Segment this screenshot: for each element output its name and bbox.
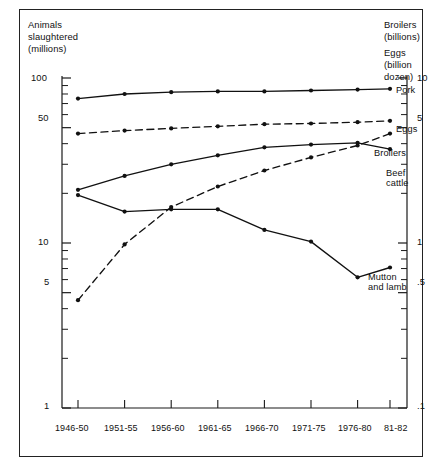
data-point <box>309 88 313 92</box>
data-point <box>76 97 80 101</box>
data-point <box>262 168 266 172</box>
data-point <box>123 129 127 133</box>
series-group <box>76 87 392 303</box>
data-point <box>262 89 266 93</box>
data-point <box>388 87 392 91</box>
data-point <box>169 162 173 166</box>
data-point <box>356 275 360 279</box>
data-point <box>356 141 360 145</box>
data-point <box>216 207 220 211</box>
data-point <box>123 92 127 96</box>
data-point <box>309 121 313 125</box>
data-point <box>169 90 173 94</box>
data-point <box>216 153 220 157</box>
data-point <box>123 210 127 214</box>
series-line-mutton-and-lamb <box>78 195 390 277</box>
chart-page: Animals slaughtered (millions) Broilers … <box>0 0 444 476</box>
data-point <box>76 132 80 136</box>
data-point <box>309 155 313 159</box>
data-point <box>123 242 127 246</box>
data-point <box>262 145 266 149</box>
data-point <box>123 174 127 178</box>
data-point <box>356 120 360 124</box>
data-point <box>388 265 392 269</box>
data-point <box>76 298 80 302</box>
data-point <box>216 184 220 188</box>
data-point <box>356 88 360 92</box>
data-point <box>169 126 173 130</box>
data-point <box>388 119 392 123</box>
data-point <box>388 147 392 151</box>
data-point <box>76 193 80 197</box>
data-point <box>262 228 266 232</box>
data-point <box>216 124 220 128</box>
data-point <box>309 143 313 147</box>
data-point <box>169 207 173 211</box>
data-point <box>388 132 392 136</box>
data-point <box>216 89 220 93</box>
chart-plot-area <box>0 0 444 476</box>
data-point <box>76 188 80 192</box>
data-point <box>309 240 313 244</box>
data-point <box>262 122 266 126</box>
